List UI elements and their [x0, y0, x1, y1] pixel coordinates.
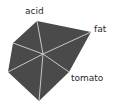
axis-label-fat: fat [94, 24, 106, 34]
axis-label-tomato: tomato [71, 73, 103, 83]
radar-chart [0, 0, 117, 109]
radar-polygon [8, 21, 91, 101]
axis-label-acid: acid [25, 6, 44, 16]
